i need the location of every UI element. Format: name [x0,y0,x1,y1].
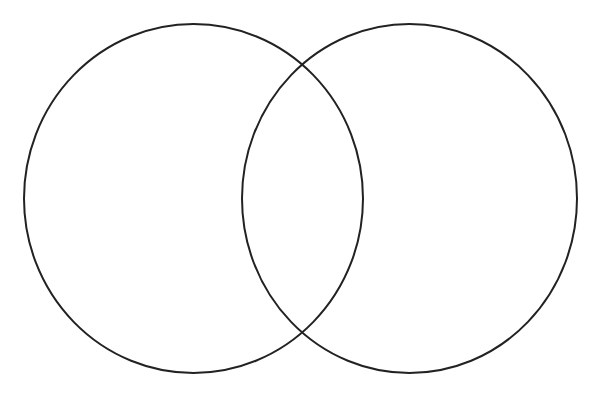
left-set-circle [24,24,363,373]
venn-diagram [0,0,598,395]
venn-diagram-canvas [0,0,598,395]
right-set-circle [242,24,577,373]
